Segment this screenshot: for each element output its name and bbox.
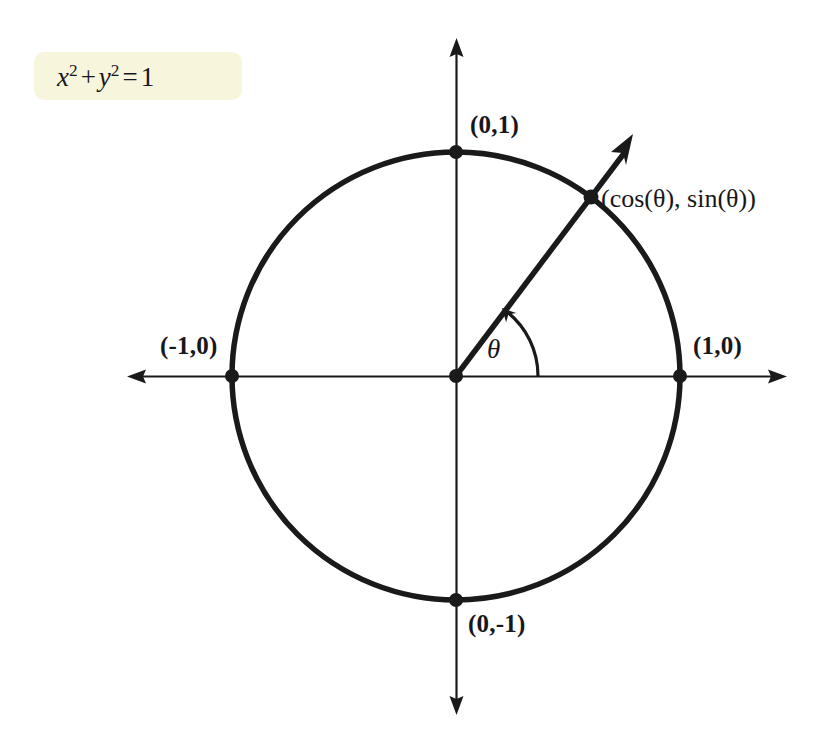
- equation-x-var: x: [57, 62, 69, 92]
- equation-plus-operator: +: [78, 62, 99, 92]
- equation-x-exponent: 2: [69, 61, 78, 80]
- point-origin: [449, 369, 463, 383]
- angle-arc-group: [502, 308, 538, 376]
- label-terminal-point-text: (cos(θ), sin(θ)): [601, 184, 756, 213]
- terminal-ray-line: [456, 152, 625, 376]
- point-top: [449, 145, 463, 159]
- equation-rhs: 1: [141, 62, 155, 92]
- angle-arc: [507, 311, 539, 376]
- label-terminal-point: (cos(θ), sin(θ)): [601, 186, 756, 212]
- equation-label: x2+y2=1: [57, 61, 154, 93]
- equation-y-var: y: [99, 62, 111, 92]
- point-left: [225, 369, 239, 383]
- point-bottom: [449, 593, 463, 607]
- label-right-point: (1,0): [693, 333, 742, 358]
- label-top-point: (0,1): [470, 112, 519, 137]
- unit-circle-svg: [0, 0, 824, 749]
- point-terminal: [584, 190, 599, 205]
- label-left-point: (-1,0): [160, 333, 217, 358]
- label-angle-theta: θ: [487, 336, 500, 363]
- point-right: [673, 369, 687, 383]
- unit-circle-figure: x2+y2=1 (0,1) (1,0) (-1,0) (0,-1) (cos(θ…: [0, 0, 824, 749]
- label-bottom-point: (0,-1): [468, 611, 525, 636]
- equation-equals-operator: =: [119, 62, 140, 92]
